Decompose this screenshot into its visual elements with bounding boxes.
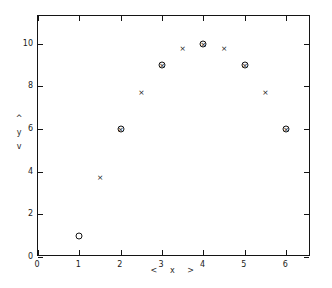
data-point-cross: × xyxy=(200,40,207,47)
y-axis-tick xyxy=(304,172,309,173)
x-axis-tick xyxy=(38,250,39,255)
y-axis-tick xyxy=(38,129,43,130)
y-axis-label-char-y: y xyxy=(13,126,25,140)
y-axis-tick xyxy=(304,129,309,130)
x-axis-tick xyxy=(162,250,163,255)
data-point-cross: × xyxy=(159,62,166,69)
x-axis-tick xyxy=(203,250,204,255)
y-axis-label: ^ y v xyxy=(13,112,25,154)
data-point-cross: × xyxy=(179,44,186,51)
data-point-cross: × xyxy=(138,88,145,95)
data-point-circle xyxy=(76,232,83,239)
scatter-plot-figure: ×××××××××× 01234560246810 < x > ^ y v xyxy=(0,0,332,288)
y-axis-label-char-up: ^ xyxy=(13,112,25,126)
x-axis-tick xyxy=(121,250,122,255)
y-axis-tick-label: 2 xyxy=(15,209,33,218)
y-axis-tick-label: 10 xyxy=(15,38,33,47)
y-axis-tick xyxy=(304,214,309,215)
plot-frame: ×××××××××× xyxy=(37,15,310,256)
y-axis-tick xyxy=(304,86,309,87)
data-point-cross: × xyxy=(117,126,124,133)
x-axis-tick xyxy=(38,16,39,21)
x-axis-tick xyxy=(79,16,80,21)
x-axis-label: < x > xyxy=(37,266,310,275)
x-axis-tick xyxy=(286,16,287,21)
y-axis-tick-label: 0 xyxy=(15,252,33,261)
y-axis-tick-label: 8 xyxy=(15,81,33,90)
y-axis-tick xyxy=(304,257,309,258)
x-axis-tick xyxy=(245,250,246,255)
data-point-cross: × xyxy=(221,44,228,51)
x-axis-tick xyxy=(121,16,122,21)
y-axis-tick-label: 4 xyxy=(15,166,33,175)
y-axis-tick xyxy=(38,214,43,215)
x-axis-tick xyxy=(162,16,163,21)
y-axis-tick xyxy=(38,257,43,258)
data-point-cross: × xyxy=(262,88,269,95)
y-axis-tick xyxy=(304,44,309,45)
y-axis-tick xyxy=(38,44,43,45)
data-point-cross: × xyxy=(283,126,290,133)
data-point-cross: × xyxy=(97,174,104,181)
y-axis-label-char-down: v xyxy=(13,140,25,154)
x-axis-tick xyxy=(245,16,246,21)
data-point-cross: × xyxy=(241,62,248,69)
x-axis-tick xyxy=(286,250,287,255)
x-axis-tick xyxy=(79,250,80,255)
y-axis-tick xyxy=(38,86,43,87)
x-axis-tick xyxy=(203,16,204,21)
y-axis-tick xyxy=(38,172,43,173)
